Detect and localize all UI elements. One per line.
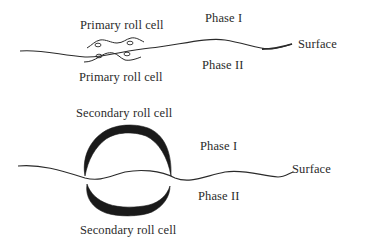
secondary-surface-line [18, 166, 293, 181]
primary-surface-label: Surface [298, 37, 337, 51]
secondary-phase-bottom-label: Phase II [198, 189, 239, 203]
primary-surface-line [20, 39, 292, 57]
primary-phase-top-label: Phase I [205, 11, 242, 25]
secondary-phase-top-label: Phase I [200, 139, 237, 153]
primary-phase-bottom-label: Phase II [202, 58, 243, 72]
secondary-lower-crescent [87, 184, 170, 216]
primary-upper-cell-1 [95, 43, 101, 47]
primary-top-label: Primary roll cell [80, 18, 164, 32]
primary-upper-cell-2 [127, 41, 133, 45]
secondary-panel-artwork [18, 125, 293, 216]
primary-bottom-label: Primary roll cell [79, 70, 163, 84]
primary-panel-artwork [20, 38, 292, 62]
secondary-surface-label: Surface [292, 162, 331, 176]
roll-cell-diagram: Primary roll cell Phase I Surface Phase … [0, 0, 372, 247]
secondary-top-label: Secondary roll cell [76, 106, 172, 120]
secondary-bottom-label: Secondary roll cell [80, 223, 176, 237]
primary-lower-cell-2 [124, 52, 130, 56]
secondary-upper-crescent [84, 125, 171, 176]
